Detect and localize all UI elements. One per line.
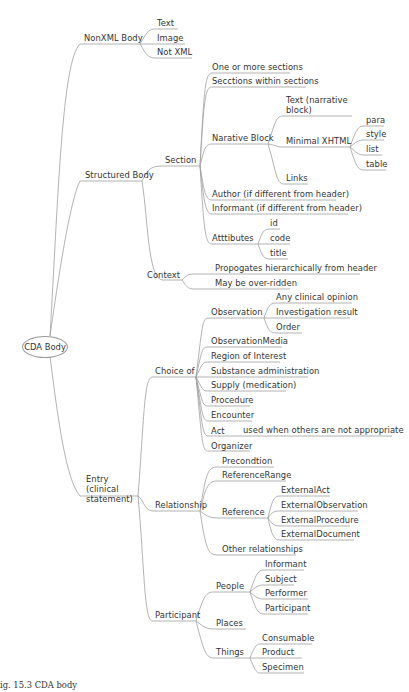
node-encounter: Encounter: [211, 410, 254, 420]
node-external-document: ExternalDocument: [281, 529, 360, 539]
node-external-act: ExternalAct: [281, 485, 330, 495]
root-node-cda-body: CDA Body: [22, 336, 68, 358]
node-attributes: Atttibutes: [212, 233, 254, 243]
node-para: para: [366, 115, 385, 125]
node-act-note: used when others are not appropriate: [243, 425, 404, 435]
mind-map-canvas: CDA Body NonXML Body Text Image Not XML …: [0, 0, 409, 692]
node-one-or-more-sections: One or more sections: [212, 62, 303, 72]
node-consumable: Consumable: [262, 633, 315, 643]
node-not-xml: Not XML: [157, 47, 192, 57]
node-organizer: Organizer: [211, 441, 252, 451]
node-links: Links: [286, 173, 308, 183]
node-code: code: [270, 233, 290, 243]
node-narrative-text: Text (narrative block): [286, 95, 356, 115]
node-id: id: [270, 218, 278, 228]
node-performer: Performer: [265, 588, 307, 598]
node-external-observation: ExternalObservation: [281, 500, 368, 510]
node-text: Text: [157, 18, 174, 28]
node-any-clinical-opinion: Any clinical opinion: [276, 292, 358, 302]
node-precondition: Precondtion: [222, 456, 272, 466]
node-people: People: [216, 581, 244, 591]
node-relationship: Relationship: [155, 500, 207, 510]
node-other-relationships: Other relationships: [222, 544, 303, 554]
node-nonxml-body: NonXML Body: [84, 33, 143, 43]
node-places: Places: [216, 618, 243, 628]
node-section: Section: [165, 155, 196, 165]
node-observation-media: ObservationMedia: [211, 336, 288, 346]
root-label: CDA Body: [24, 342, 66, 352]
node-observation: Observation: [211, 307, 263, 317]
node-title: title: [270, 248, 287, 258]
node-reference: Reference: [222, 507, 265, 517]
node-subject: Subject: [265, 574, 297, 584]
node-specimen: Specimen: [262, 662, 304, 672]
node-region-of-interest: Region of Interest: [211, 351, 286, 361]
node-table: table: [366, 159, 387, 169]
node-things: Things: [216, 647, 244, 657]
node-reference-range: ReferenceRange: [222, 470, 291, 480]
node-narrative-block: Narative Block: [212, 133, 274, 143]
node-sections-within-sections: Secctions within sections: [212, 76, 319, 86]
node-style: style: [366, 129, 386, 139]
node-structured-body: Structured Body: [85, 170, 154, 180]
node-act: Act: [211, 426, 225, 436]
node-informant: Informant: [265, 559, 306, 569]
node-participant: Participant: [155, 610, 200, 620]
node-participant-person: Participant: [265, 603, 310, 613]
node-image: Image: [157, 33, 183, 43]
node-procedure: Procedure: [211, 395, 254, 405]
node-investigation-result: Investigation result: [276, 307, 358, 317]
node-may-be-overridden: May be over-ridden: [215, 278, 297, 288]
node-entry-clinical-statement: Entry (clinical statement): [86, 474, 140, 504]
node-external-procedure: ExternalProcedure: [281, 515, 359, 525]
figure-caption: ig. 15.3 CDA body: [0, 680, 77, 690]
node-minimal-xhtml: Minimal XHTML: [286, 136, 351, 146]
node-context: Context: [147, 270, 180, 280]
node-author: Author (if different from header): [212, 189, 349, 199]
node-order: Order: [276, 322, 300, 332]
node-choice-of: Choice of: [155, 366, 195, 376]
node-informant-section: Informant (if different from header): [212, 203, 362, 213]
node-supply-medication: Supply (medication): [211, 380, 296, 390]
node-substance-administration: Substance administration: [211, 366, 319, 376]
node-propagates: Propogates hierarchically from header: [215, 263, 377, 273]
node-product: Product: [262, 647, 294, 657]
node-list: list: [366, 144, 379, 154]
